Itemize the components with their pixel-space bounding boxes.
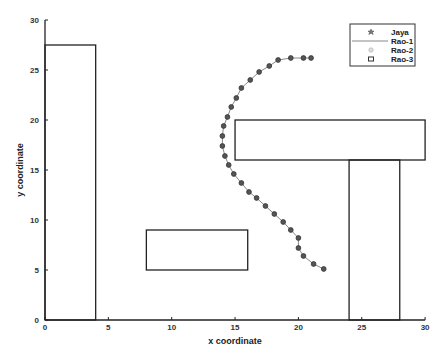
- path-marker: [281, 220, 286, 225]
- path-marker: [239, 86, 244, 91]
- path-marker: [220, 134, 225, 139]
- path-marker: [223, 154, 228, 159]
- path-marker: [301, 254, 306, 259]
- path-series: [220, 56, 326, 272]
- x-tick-label: 30: [421, 323, 430, 332]
- path-marker: [231, 172, 236, 177]
- x-tick-label: 5: [106, 323, 111, 332]
- obstacle-3: [235, 120, 425, 160]
- path-marker: [239, 181, 244, 186]
- path-marker: [220, 144, 225, 149]
- path-marker: [272, 212, 277, 217]
- y-tick-label: 0: [35, 316, 40, 325]
- path-marker: [288, 56, 293, 61]
- legend-label: Rao-1: [391, 37, 414, 46]
- y-tick-label: 30: [30, 16, 39, 25]
- circle-marker-icon: [369, 48, 373, 52]
- path-marker: [225, 115, 230, 120]
- path-marker: [254, 196, 259, 201]
- y-tick-label: 10: [30, 216, 39, 225]
- path-marker: [296, 246, 301, 251]
- path-marker: [257, 70, 262, 75]
- path-marker: [226, 163, 231, 168]
- y-tick-label: 15: [30, 166, 39, 175]
- legend: JayaRao-1Rao-2Rao-3: [350, 24, 415, 66]
- x-tick-label: 0: [43, 323, 48, 332]
- path-marker: [311, 262, 316, 267]
- obstacles: [45, 45, 425, 320]
- x-tick-label: 10: [167, 323, 176, 332]
- x-tick-label: 15: [231, 323, 240, 332]
- path-marker: [296, 236, 301, 241]
- y-tick-label: 20: [30, 116, 39, 125]
- path-marker: [267, 64, 272, 69]
- x-tick-label: 20: [294, 323, 303, 332]
- y-axis-label: y coordinate: [15, 143, 25, 197]
- obstacle-2: [146, 230, 247, 270]
- path-line: [222, 58, 323, 269]
- path-marker: [301, 56, 306, 61]
- path-marker: [288, 228, 293, 233]
- y-tick-label: 25: [30, 66, 39, 75]
- path-marker: [247, 190, 252, 195]
- legend-label: Rao-2: [391, 46, 414, 55]
- x-tick-label: 25: [357, 323, 366, 332]
- obstacle-4: [349, 160, 400, 320]
- path-marker: [321, 267, 326, 272]
- path-marker: [234, 96, 239, 101]
- path-marker: [263, 204, 268, 209]
- y-tick-label: 5: [35, 266, 40, 275]
- path-marker: [309, 56, 314, 61]
- legend-label: Rao-3: [391, 55, 414, 64]
- path-marker: [248, 78, 253, 83]
- chart-canvas: 051015202530051015202530 x coordinate y …: [0, 0, 445, 358]
- obstacle-1: [45, 45, 96, 320]
- x-axis-label: x coordinate: [208, 336, 262, 346]
- legend-label: Jaya: [391, 28, 409, 37]
- path-marker: [276, 58, 281, 63]
- path-marker: [221, 124, 226, 129]
- path-marker: [229, 105, 234, 110]
